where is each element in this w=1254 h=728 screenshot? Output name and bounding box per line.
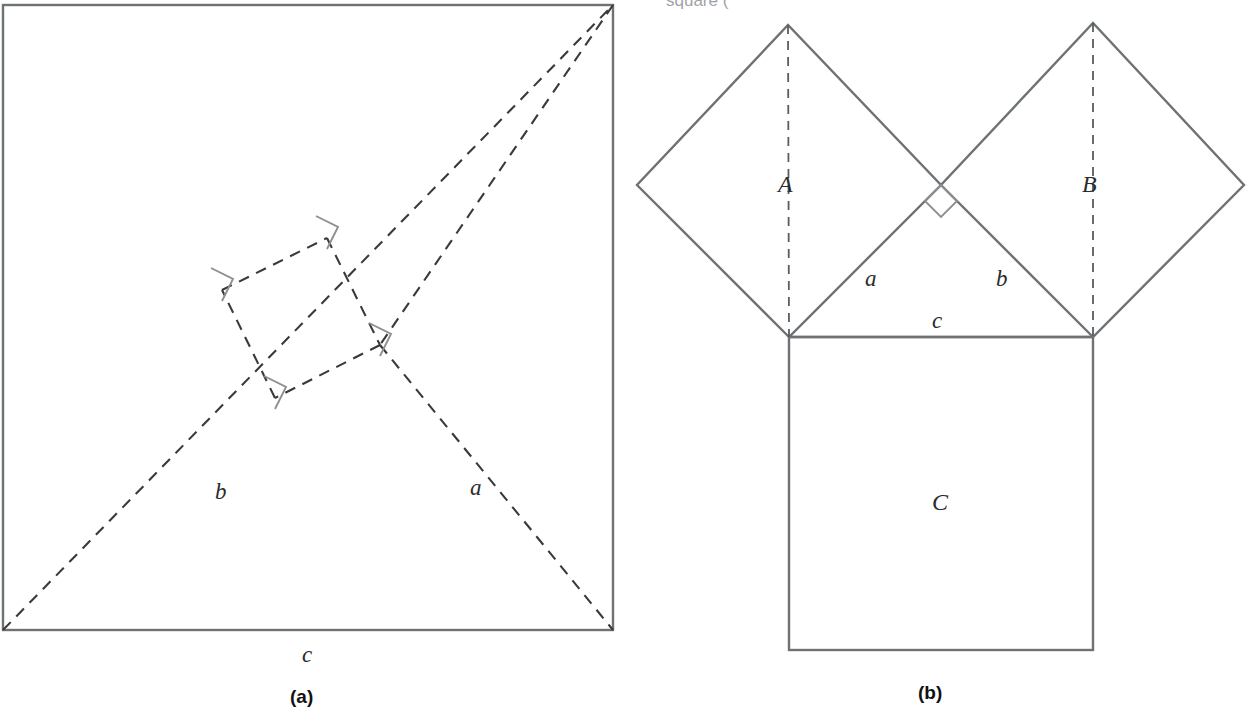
label-square-a: A	[776, 171, 793, 197]
dashed-inner-edge-bottom-right	[275, 345, 380, 398]
dashed-leg-a-lower	[380, 345, 613, 630]
label-square-c: C	[932, 489, 949, 515]
panel-b-group: A B C a b c (b)	[637, 23, 1244, 703]
label-side-a-panel-a: a	[470, 475, 482, 500]
right-angle-mark-top	[316, 216, 338, 249]
dashed-inner-edge-top-right	[327, 238, 380, 345]
label-side-c-panel-a: c	[302, 642, 312, 667]
figure-root: square ( b	[0, 0, 1254, 728]
dashed-inner-edge-top-left	[222, 238, 327, 290]
dashed-leg-a-upper	[380, 5, 613, 345]
dashed-diagonal-main	[3, 5, 613, 630]
label-side-b-panel-b: b	[996, 266, 1008, 291]
label-side-b-panel-a: b	[215, 479, 227, 504]
panel-a-group: b a c (a)	[3, 5, 613, 707]
right-angle-mark-left	[211, 268, 233, 301]
label-side-c-panel-b: c	[932, 308, 942, 333]
panel-caption-a: (a)	[290, 686, 313, 707]
clipped-header-text: square (	[666, 0, 729, 10]
dashed-inner-edge-bottom-left	[222, 290, 275, 398]
right-angle-mark-apex	[925, 185, 957, 217]
right-angle-mark-bottom	[264, 376, 286, 409]
label-square-b: B	[1082, 171, 1097, 197]
label-side-a-panel-b: a	[865, 266, 877, 291]
panel-caption-b: (b)	[918, 682, 942, 703]
pythagorean-theorem-figure: square ( b	[0, 0, 1254, 728]
